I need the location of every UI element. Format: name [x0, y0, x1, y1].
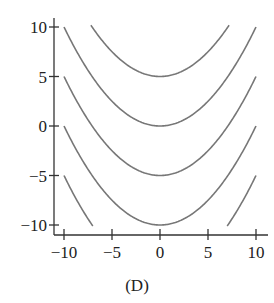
y-tick-label: 0 — [39, 117, 48, 136]
y-tick-label: 5 — [39, 68, 48, 87]
parabola-curve — [64, 176, 93, 226]
x-tick-label: 10 — [248, 243, 265, 262]
figure-caption: (D) — [0, 276, 274, 296]
parabola-curve — [91, 25, 229, 76]
parabola-curve — [227, 176, 256, 226]
x-tick-label: −10 — [51, 243, 78, 262]
y-tick-label: −10 — [20, 216, 47, 235]
axes: −10−50510−10−50510 — [20, 18, 268, 262]
y-tick-label: −5 — [29, 167, 47, 186]
chart: −10−50510−10−50510 — [0, 0, 274, 303]
y-tick-label: 10 — [30, 18, 47, 37]
x-tick-label: 0 — [156, 243, 165, 262]
curves — [64, 25, 256, 226]
x-tick-label: 5 — [204, 243, 213, 262]
x-tick-label: −5 — [103, 243, 121, 262]
